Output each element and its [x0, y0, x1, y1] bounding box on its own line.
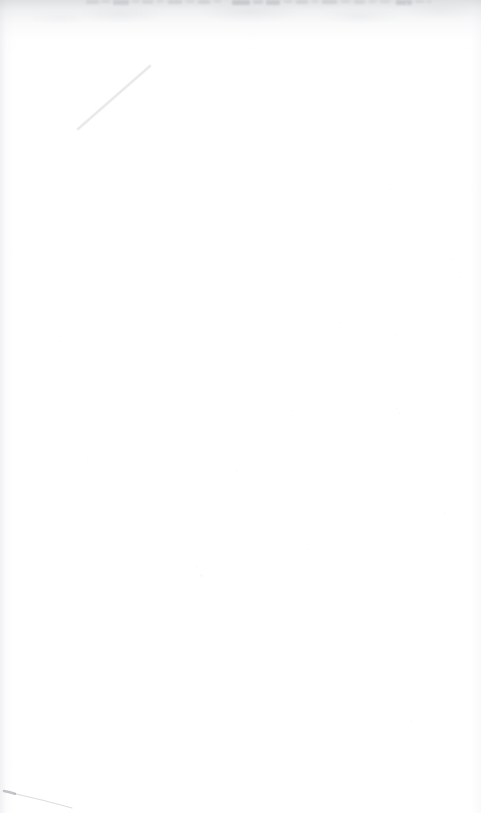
scanned-page — [0, 0, 481, 813]
paper-background — [0, 0, 481, 813]
